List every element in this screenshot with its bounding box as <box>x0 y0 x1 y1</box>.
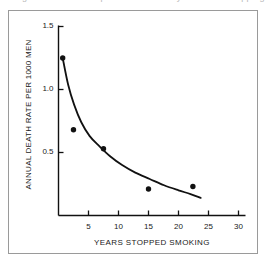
x-tick-label: 5 <box>80 222 98 231</box>
figure-root: Figure — relationship of death rate to y… <box>0 0 267 265</box>
data-point-layer <box>60 55 196 191</box>
x-tick-label: 25 <box>200 222 218 231</box>
x-tick-label: 30 <box>230 222 248 231</box>
fitted-curve <box>63 58 201 198</box>
data-point <box>146 186 151 191</box>
chart-plot-area <box>0 0 267 265</box>
x-tick-label: 15 <box>140 222 158 231</box>
axis-layer <box>59 26 246 216</box>
y-axis-title: ANNUAL DEATH RATE PER 1000 MEN <box>24 25 33 205</box>
data-point <box>71 127 76 132</box>
data-point <box>190 184 195 189</box>
x-axis-title: YEARS STOPPED SMOKING <box>58 238 246 247</box>
data-point <box>60 55 65 60</box>
x-tick-label: 20 <box>170 222 188 231</box>
fitted-curve-layer <box>63 58 201 198</box>
x-tick-label: 10 <box>110 222 128 231</box>
data-point <box>101 146 106 151</box>
